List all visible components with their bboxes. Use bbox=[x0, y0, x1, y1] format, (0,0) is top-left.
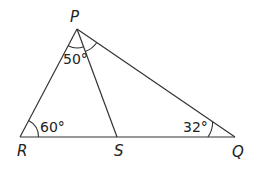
segment-pq bbox=[77, 29, 235, 137]
angle-arc-r bbox=[29, 121, 39, 137]
angle-arc-rps bbox=[68, 46, 83, 48]
angle-label-rps: 50° bbox=[63, 51, 88, 67]
triangle-diagram: P R S Q 60° 32° 50° bbox=[0, 0, 260, 169]
angle-label-q: 32° bbox=[183, 119, 208, 135]
vertex-label-s: S bbox=[114, 142, 124, 160]
angle-arc-q bbox=[208, 122, 213, 137]
vertex-label-r: R bbox=[17, 142, 27, 160]
angle-label-r: 60° bbox=[40, 119, 65, 135]
vertex-label-p: P bbox=[70, 8, 80, 26]
vertex-label-q: Q bbox=[232, 143, 244, 161]
segment-ps bbox=[77, 29, 117, 137]
